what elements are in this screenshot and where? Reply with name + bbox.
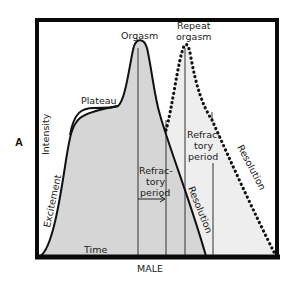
intensity-axis-label: Intensity	[40, 113, 51, 155]
repeat-orgasm-label-line2: orgasm	[176, 31, 212, 42]
plateau-label: Plateau	[81, 95, 117, 106]
figure-caption: MALE	[137, 263, 163, 274]
sexual-response-cycle-diagram: Orgasm Repeat orgasm Plateau Refrac- tor…	[0, 0, 294, 285]
refractory2-label-line2: tory	[194, 140, 213, 151]
refractory1-label-line3: period	[140, 187, 170, 198]
time-axis-label: Time	[83, 244, 107, 255]
panel-label: A	[15, 136, 23, 148]
refractory1-label-line1: Refrac-	[139, 165, 173, 176]
orgasm-label: Orgasm	[121, 30, 158, 41]
refractory2-label-line1: Refrac-	[187, 129, 221, 140]
refractory2-label-line3: period	[188, 151, 218, 162]
repeat-orgasm-label-line1: Repeat	[177, 20, 211, 31]
refractory1-label-line2: tory	[146, 176, 165, 187]
